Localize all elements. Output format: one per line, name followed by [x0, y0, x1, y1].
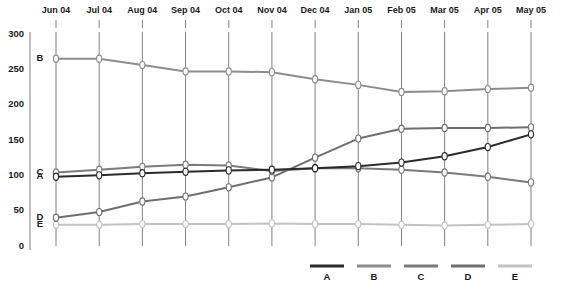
- data-series: [53, 55, 533, 229]
- x-tick-label: Jul 04: [86, 5, 112, 15]
- data-point-marker: [183, 161, 188, 168]
- data-point-marker: [528, 84, 533, 91]
- data-point-marker: [140, 198, 145, 205]
- data-point-marker: [53, 55, 58, 62]
- data-point-marker: [528, 220, 533, 227]
- series-line-e: [56, 223, 531, 225]
- data-point-marker: [97, 172, 102, 179]
- data-point-marker: [442, 153, 447, 160]
- y-tick-label: 100: [8, 169, 24, 180]
- data-point-marker: [356, 81, 361, 88]
- y-tick-label: 200: [8, 98, 24, 109]
- data-point-marker: [399, 88, 404, 95]
- data-point-marker: [183, 68, 188, 75]
- x-tick-label: Apr 05: [474, 5, 502, 15]
- data-point-marker: [528, 179, 533, 186]
- data-point-marker: [269, 166, 274, 173]
- chart-canvas: Jun 04Jul 04Aug 04Sep 04Oct 04Nov 04Dec …: [0, 0, 561, 287]
- data-point-marker: [140, 170, 145, 177]
- x-tick-label: Feb 05: [387, 5, 416, 15]
- series-e: [53, 220, 533, 229]
- data-point-marker: [485, 86, 490, 93]
- y-axis-labels: 050100150200250300: [8, 28, 24, 251]
- series-a: [53, 131, 533, 181]
- series-tag-b: B: [37, 52, 44, 63]
- series-b: [53, 55, 533, 95]
- data-point-marker: [528, 131, 533, 138]
- data-point-marker: [356, 220, 361, 227]
- axis-ticks: [56, 20, 531, 28]
- y-tick-label: 150: [8, 134, 24, 145]
- x-tick-label: Sep 04: [171, 5, 200, 15]
- legend-label-d: D: [465, 271, 472, 282]
- data-point-marker: [442, 124, 447, 131]
- legend: ABCDE: [310, 266, 532, 282]
- x-tick-label: May 05: [516, 5, 546, 15]
- x-tick-label: Nov 04: [257, 5, 287, 15]
- x-tick-label: Jun 04: [42, 5, 71, 15]
- data-point-marker: [442, 169, 447, 176]
- legend-label-a: A: [324, 271, 331, 282]
- y-tick-label: 300: [8, 28, 24, 39]
- data-point-marker: [528, 124, 533, 131]
- series-tag-a: A: [37, 170, 44, 181]
- data-point-marker: [399, 221, 404, 228]
- gridlines: [56, 32, 531, 246]
- data-point-marker: [226, 167, 231, 174]
- y-tick-label: 0: [19, 240, 24, 251]
- data-point-marker: [399, 166, 404, 173]
- data-point-marker: [97, 208, 102, 215]
- x-tick-label: Aug 04: [127, 5, 157, 15]
- data-point-marker: [485, 143, 490, 150]
- data-point-marker: [485, 173, 490, 180]
- series-line-d: [56, 127, 531, 217]
- data-point-marker: [97, 55, 102, 62]
- data-point-marker: [399, 159, 404, 166]
- series-d: [53, 124, 533, 222]
- x-axis-labels: Jun 04Jul 04Aug 04Sep 04Oct 04Nov 04Dec …: [42, 5, 546, 15]
- data-point-marker: [183, 193, 188, 200]
- data-point-marker: [53, 221, 58, 228]
- data-point-marker: [269, 69, 274, 76]
- data-point-marker: [53, 214, 58, 221]
- data-point-marker: [269, 220, 274, 227]
- data-point-marker: [183, 220, 188, 227]
- data-point-marker: [312, 220, 317, 227]
- data-point-marker: [226, 184, 231, 191]
- data-point-marker: [140, 220, 145, 227]
- x-tick-label: Dec 04: [301, 5, 330, 15]
- x-tick-label: Jan 05: [344, 5, 372, 15]
- x-tick-label: Oct 04: [215, 5, 243, 15]
- data-point-marker: [442, 222, 447, 229]
- data-point-marker: [312, 76, 317, 83]
- y-tick-label: 250: [8, 63, 24, 74]
- data-point-marker: [442, 88, 447, 95]
- series-line-b: [56, 59, 531, 92]
- data-point-marker: [485, 124, 490, 131]
- data-point-marker: [226, 68, 231, 75]
- data-point-marker: [226, 220, 231, 227]
- data-point-marker: [97, 221, 102, 228]
- legend-label-c: C: [418, 271, 425, 282]
- data-point-marker: [312, 154, 317, 161]
- series-tags: BCADE: [37, 52, 44, 229]
- data-point-marker: [356, 163, 361, 170]
- y-tick-label: 50: [13, 204, 24, 215]
- x-tick-label: Mar 05: [430, 5, 459, 15]
- data-point-marker: [183, 168, 188, 175]
- data-point-marker: [140, 61, 145, 68]
- line-chart: Jun 04Jul 04Aug 04Sep 04Oct 04Nov 04Dec …: [0, 0, 561, 287]
- series-tag-e: E: [37, 218, 43, 229]
- legend-label-b: B: [371, 271, 378, 282]
- data-point-marker: [485, 221, 490, 228]
- data-point-marker: [312, 165, 317, 172]
- data-point-marker: [356, 135, 361, 142]
- data-point-marker: [53, 173, 58, 180]
- data-point-marker: [399, 125, 404, 132]
- legend-label-e: E: [512, 271, 518, 282]
